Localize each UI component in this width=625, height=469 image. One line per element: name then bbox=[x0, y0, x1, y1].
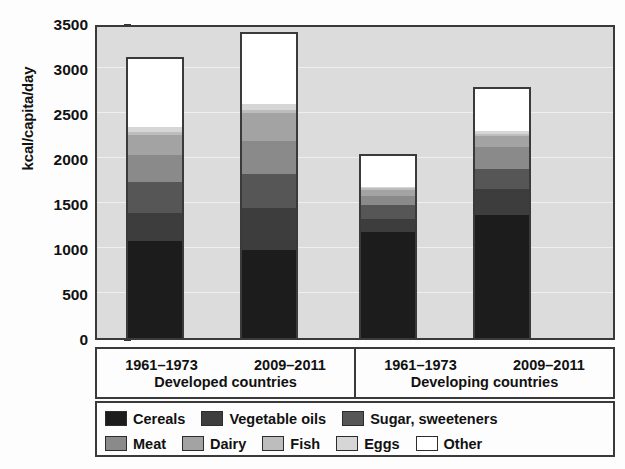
y-axis-tick-label: 2500 bbox=[42, 106, 88, 124]
x-axis-group-label: Developed countries bbox=[154, 374, 297, 390]
bar-segment bbox=[128, 135, 182, 156]
y-axis-tick-label: 3500 bbox=[42, 16, 88, 34]
legend-label: Other bbox=[444, 436, 483, 452]
bar-segment bbox=[242, 141, 296, 174]
legend-swatch-icon bbox=[336, 436, 358, 451]
legend-item: Fish bbox=[262, 436, 320, 452]
x-axis-period-label: 1961–1973 bbox=[125, 357, 198, 373]
legend-item: Cereals bbox=[105, 411, 185, 427]
legend-label: Meat bbox=[133, 436, 166, 452]
stacked-bar bbox=[473, 87, 531, 338]
bar-segment bbox=[128, 241, 182, 338]
bar-segment bbox=[475, 169, 529, 189]
legend-item: Meat bbox=[105, 436, 166, 452]
y-axis-tick-label: 2000 bbox=[42, 151, 88, 169]
legend-swatch-icon bbox=[105, 436, 127, 451]
bar-segment bbox=[361, 232, 415, 338]
chart-legend: CerealsVegetable oilsSugar, sweetenersMe… bbox=[95, 401, 615, 457]
bar-segment bbox=[128, 155, 182, 182]
legend-item: Dairy bbox=[182, 436, 246, 452]
bar-segment bbox=[242, 113, 296, 141]
y-axis-title: kcal/capita/day bbox=[19, 4, 36, 234]
legend-item: Other bbox=[416, 436, 483, 452]
legend-row: MeatDairyFishEggsOther bbox=[105, 431, 605, 456]
y-axis-tick-labels: 0500100015002000250030003500 bbox=[36, 0, 88, 469]
legend-item: Sugar, sweeteners bbox=[342, 411, 497, 427]
x-axis-period-label: 2009–2011 bbox=[513, 357, 585, 373]
bar-segment bbox=[361, 156, 415, 187]
x-axis-group-label: Developing countries bbox=[411, 374, 558, 390]
legend-label: Cereals bbox=[133, 411, 185, 427]
legend-swatch-icon bbox=[416, 436, 438, 451]
legend-row: CerealsVegetable oilsSugar, sweeteners bbox=[105, 406, 605, 431]
legend-label: Fish bbox=[290, 436, 320, 452]
bar-segment bbox=[475, 147, 529, 169]
bar-segment bbox=[361, 205, 415, 219]
bar-segment bbox=[128, 213, 182, 241]
chart-figure: kcal/capita/day 050010001500200025003000… bbox=[0, 0, 625, 469]
bar-segment bbox=[361, 196, 415, 205]
bar-segment bbox=[361, 219, 415, 232]
legend-swatch-icon bbox=[342, 411, 364, 426]
y-axis-tick-label: 3000 bbox=[42, 61, 88, 79]
legend-label: Dairy bbox=[210, 436, 246, 452]
y-axis-tick-label: 1000 bbox=[42, 241, 88, 259]
y-axis-tick-label: 0 bbox=[42, 331, 88, 349]
stacked-bar bbox=[240, 32, 298, 338]
bar-segment bbox=[242, 250, 296, 338]
x-axis-group: 1961–19732009–2011Developing countries bbox=[354, 349, 613, 397]
bar-segment bbox=[475, 136, 529, 147]
plot-area bbox=[95, 25, 615, 340]
x-axis-group-band: 1961–19732009–2011Developed countries196… bbox=[95, 347, 615, 399]
legend-label: Sugar, sweeteners bbox=[370, 411, 497, 427]
legend-label: Vegetable oils bbox=[229, 411, 326, 427]
legend-swatch-icon bbox=[262, 436, 284, 451]
bar-segment bbox=[242, 34, 296, 104]
stacked-bar bbox=[126, 57, 184, 338]
legend-swatch-icon bbox=[105, 411, 127, 426]
legend-label: Eggs bbox=[364, 436, 399, 452]
bar-segment bbox=[475, 89, 529, 131]
y-axis-tick-label: 500 bbox=[42, 286, 88, 304]
legend-swatch-icon bbox=[182, 436, 204, 451]
x-axis-period-label: 1961–1973 bbox=[384, 357, 457, 373]
bar-segment bbox=[128, 182, 182, 213]
x-axis-group: 1961–19732009–2011Developed countries bbox=[97, 349, 354, 397]
bar-segment bbox=[242, 208, 296, 250]
bar-segment bbox=[475, 215, 529, 338]
x-axis-period-label: 2009–2011 bbox=[254, 357, 326, 373]
legend-item: Eggs bbox=[336, 436, 399, 452]
bar-segment bbox=[128, 59, 182, 127]
legend-item: Vegetable oils bbox=[201, 411, 326, 427]
stacked-bar bbox=[359, 154, 417, 338]
legend-swatch-icon bbox=[201, 411, 223, 426]
bar-segment bbox=[242, 174, 296, 207]
y-axis-tick-label: 1500 bbox=[42, 196, 88, 214]
bar-segment bbox=[475, 189, 529, 215]
